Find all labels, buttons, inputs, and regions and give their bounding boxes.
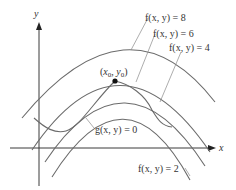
leader-f6 <box>136 34 155 82</box>
label-constraint-g: g(x, y) = 0 <box>95 124 137 136</box>
label-f6: f(x, y) = 6 <box>153 28 194 40</box>
leader-f4 <box>160 52 181 102</box>
label-f4: f(x, y) = 4 <box>169 42 210 54</box>
y-axis-label: y <box>33 8 39 19</box>
y-axis-arrow-icon <box>36 22 42 30</box>
label-point: (x0, y0) <box>100 66 128 79</box>
level-curve-f8 <box>22 50 215 118</box>
leader-g <box>86 118 94 128</box>
label-f8: f(x, y) = 8 <box>145 12 186 24</box>
label-f2: f(x, y) = 2 <box>138 163 179 175</box>
tangent-point <box>112 78 117 83</box>
x-axis-label: x <box>218 142 224 153</box>
lagrange-diagram: y x f(x, y) = 8 f(x, y) = 6 f(x, y) = 4 … <box>0 0 236 190</box>
